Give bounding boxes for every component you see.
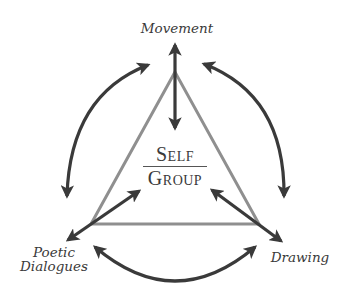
arrow-drawing-self: [212, 190, 281, 241]
arc-poetic-drawing: [95, 247, 255, 281]
center-self-group: Self Group: [135, 144, 215, 189]
node-label-poetic-line2: Dialogues: [6, 259, 102, 273]
self-group-diagram: Movement Poetic Dialogues Drawing Self G…: [0, 0, 344, 301]
center-group-label: Group: [135, 168, 215, 189]
node-label-poetic-line1: Poetic: [6, 245, 102, 259]
node-label-drawing: Drawing: [260, 250, 340, 264]
center-self-label: Self: [135, 144, 215, 165]
node-label-movement: Movement: [125, 21, 229, 35]
arc-movement-drawing: [204, 64, 284, 196]
node-label-poetic-dialogues: Poetic Dialogues: [6, 245, 102, 273]
